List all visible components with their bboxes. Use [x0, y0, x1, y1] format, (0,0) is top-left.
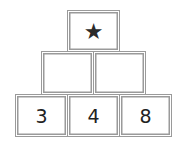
pyramid-bottom-cell-3: 8 [119, 94, 172, 137]
pyramid-top-cell: ★ [67, 10, 120, 52]
cell-value: 4 [87, 105, 99, 127]
pyramid-middle-cell-2[interactable] [93, 51, 146, 95]
cell-value: 8 [139, 105, 151, 127]
star-icon: ★ [84, 21, 104, 43]
cell-value: 3 [35, 105, 47, 127]
pyramid-middle-cell-1[interactable] [41, 51, 94, 95]
pyramid-bottom-cell-2: 4 [67, 94, 120, 137]
pyramid-bottom-cell-1: 3 [15, 94, 68, 137]
